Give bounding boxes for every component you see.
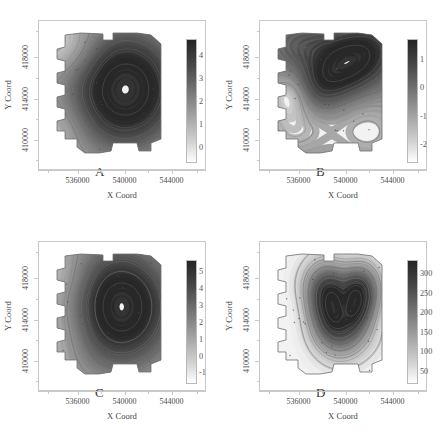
colorbar-tick-label: 4 <box>199 52 203 60</box>
field-map <box>51 31 169 159</box>
x-tick-minor <box>369 170 370 173</box>
y-tick-labels: 410000414000418000 <box>239 241 253 391</box>
y-tick-minor <box>36 78 39 79</box>
x-tick-label: 544000 <box>381 176 405 185</box>
colorbar-tick-label: 2 <box>199 319 203 327</box>
y-tick-labels: 410000414000418000 <box>18 241 32 391</box>
x-tick-label: 544000 <box>160 176 184 185</box>
colorbar-tick-label: 150 <box>420 328 432 336</box>
y-axis-label-text: Y Coord <box>224 80 234 110</box>
y-tick-minor <box>36 119 39 120</box>
panel-a: 43210 A 536000540000544000 4100004140004… <box>0 0 221 221</box>
y-tick <box>34 140 38 141</box>
colorbar-ticks: 10-1-2 <box>420 39 442 163</box>
x-tick-minor <box>48 170 49 173</box>
colorbar-tick-label: -1 <box>420 112 427 120</box>
x-axis <box>38 170 206 171</box>
x-tick-labels: 536000540000544000 <box>259 176 427 188</box>
y-tick-minor <box>257 252 260 253</box>
colorbar-tick-label: 1 <box>199 335 203 343</box>
colorbar-tick-label: 50 <box>420 368 428 376</box>
plot-area <box>39 21 205 169</box>
colorbar <box>407 39 418 163</box>
y-axis-label: Y Coord <box>2 20 14 170</box>
y-tick <box>34 278 38 279</box>
y-tick <box>255 361 259 362</box>
y-tick-label: 410000 <box>21 128 30 152</box>
x-tick-labels: 536000540000544000 <box>38 397 206 409</box>
x-tick-label: 536000 <box>287 176 311 185</box>
field-map <box>51 252 169 380</box>
y-tick-labels: 410000414000418000 <box>18 20 32 170</box>
x-tick-minor <box>322 391 323 394</box>
x-tick-minor <box>369 391 370 394</box>
y-tick-label: 410000 <box>242 128 251 152</box>
x-tick-minor <box>418 170 419 173</box>
y-tick-label: 414000 <box>242 308 251 332</box>
y-tick-label: 414000 <box>242 87 251 111</box>
field-map <box>272 252 390 380</box>
plot-area <box>39 242 205 390</box>
y-tick-label: 418000 <box>242 45 251 69</box>
panel-c: 543210-1 C 536000540000544000 4100004140… <box>0 221 221 442</box>
x-tick-label: 540000 <box>113 176 137 185</box>
x-tick <box>172 391 173 395</box>
x-tick <box>393 391 394 395</box>
y-axis <box>38 241 39 391</box>
y-tick-label: 410000 <box>242 349 251 373</box>
colorbar-tick-label: 2 <box>199 98 203 106</box>
plot-frame: 30025020015010050 D <box>259 241 427 391</box>
field-map <box>272 31 390 159</box>
y-tick-minor <box>257 340 260 341</box>
x-tick-label: 540000 <box>113 397 137 406</box>
x-tick <box>125 391 126 395</box>
x-tick-label: 536000 <box>287 397 311 406</box>
x-tick-minor <box>269 391 270 394</box>
y-tick-minor <box>36 340 39 341</box>
y-tick <box>34 99 38 100</box>
x-tick-minor <box>418 391 419 394</box>
y-axis-label: Y Coord <box>223 20 235 170</box>
x-tick-minor <box>48 391 49 394</box>
x-tick <box>78 170 79 174</box>
y-tick-minor <box>257 119 260 120</box>
y-tick-minor <box>36 252 39 253</box>
x-tick <box>78 391 79 395</box>
x-tick-minor <box>322 170 323 173</box>
x-tick <box>299 391 300 395</box>
x-tick <box>125 170 126 174</box>
colorbar-tick-label: 3 <box>199 302 203 310</box>
colorbar-tick-label: 0 <box>199 352 203 360</box>
y-axis-label-text: Y Coord <box>3 301 13 331</box>
colorbar <box>186 39 197 163</box>
colorbar-tick-label: 1 <box>420 55 424 63</box>
y-axis-label-text: Y Coord <box>224 301 234 331</box>
y-tick-minor <box>257 381 260 382</box>
x-tick-minor <box>197 391 198 394</box>
y-tick-minor <box>36 160 39 161</box>
y-tick <box>34 57 38 58</box>
x-tick-minor <box>148 391 149 394</box>
x-tick-minor <box>197 170 198 173</box>
y-tick-label: 414000 <box>21 87 30 111</box>
x-tick-minor <box>148 170 149 173</box>
y-tick-minor <box>257 78 260 79</box>
y-tick-minor <box>36 31 39 32</box>
colorbar-tick-label: 0 <box>199 144 203 152</box>
y-tick-minor <box>257 160 260 161</box>
x-axis <box>259 391 427 392</box>
x-tick-label: 536000 <box>66 176 90 185</box>
colorbar-ticks: 30025020015010050 <box>420 260 442 384</box>
y-tick <box>255 278 259 279</box>
x-tick <box>346 391 347 395</box>
x-tick-label: 540000 <box>334 176 358 185</box>
contour-map-svg <box>272 31 390 159</box>
y-axis-label-text: Y Coord <box>3 80 13 110</box>
y-tick-label: 418000 <box>21 45 30 69</box>
x-tick <box>393 170 394 174</box>
x-tick <box>346 170 347 174</box>
x-tick-labels: 536000540000544000 <box>259 397 427 409</box>
colorbar-tick-label: 200 <box>420 309 432 317</box>
contour-map-svg <box>51 31 169 159</box>
x-tick <box>299 170 300 174</box>
